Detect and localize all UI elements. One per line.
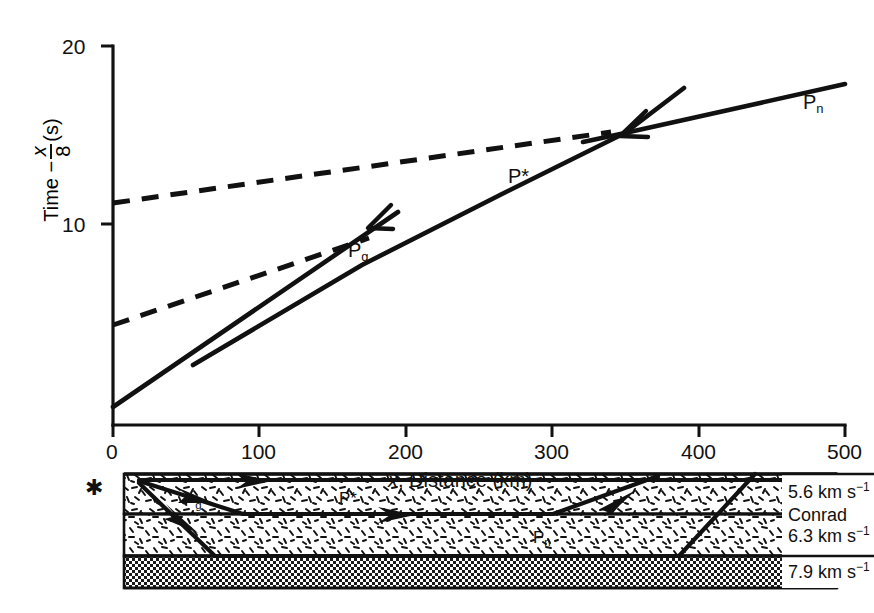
section-label-pg-sub: g <box>195 499 201 511</box>
y-axis-title: Time − x 8 (s) <box>31 55 71 285</box>
pstar-branch <box>193 88 684 365</box>
lower-crust-layer <box>124 514 837 556</box>
velocity-label-upper-crust: 5.6 km s−1 <box>787 483 871 501</box>
section-label-pn: Pn <box>533 529 551 546</box>
curve-label-pg-main: P <box>348 239 361 261</box>
x-tick-label-400: 400 <box>681 441 716 462</box>
earthquake-source-star-icon: ✱ <box>85 477 103 499</box>
y-axis-title-suffix: (s) <box>40 118 63 141</box>
curve-label-pn-sub: n <box>816 101 823 116</box>
y-axis-fraction: x 8 <box>29 144 73 159</box>
pn-asymptote-dashed <box>113 132 611 203</box>
travel-time-graph <box>0 0 874 613</box>
curve-label-pg: Pg <box>348 240 369 260</box>
curve-label-pstar: P* <box>508 166 529 186</box>
y-tick-label-20: 20 <box>62 36 85 57</box>
x-axis-title-var: x <box>388 469 398 491</box>
velocity-middle-value: 6.3 km s <box>788 526 856 546</box>
y-axis-title-prefix: Time − <box>40 161 63 222</box>
curve-label-pg-sub: g <box>361 249 368 264</box>
conrad-label: Conrad <box>787 506 848 524</box>
velocity-mantle-value: 7.9 km s <box>788 562 856 582</box>
section-label-pg: Pg <box>184 492 202 509</box>
x-axis-title-rest: , Distance (km) <box>398 469 532 491</box>
velocity-mantle-exponent: −1 <box>856 560 870 574</box>
x-tick-label-100: 100 <box>241 441 276 462</box>
x-axis-title: x, Distance (km) <box>388 470 532 491</box>
fraction-numerator: x <box>29 144 49 158</box>
section-label-pstar: P* <box>339 490 357 507</box>
curve-label-pn-main: P <box>803 91 816 113</box>
upper-mantle-layer <box>124 556 837 588</box>
x-tick-label-300: 300 <box>534 441 569 462</box>
figure-root: 20 10 Time − x 8 (s) 0 100 200 300 400 5… <box>0 0 874 613</box>
velocity-upper-exponent: −1 <box>856 480 870 494</box>
section-label-pn-main: P <box>533 528 544 547</box>
velocity-middle-exponent: −1 <box>856 524 870 538</box>
velocity-upper-value: 5.6 km s <box>788 482 856 502</box>
x-tick-label-0: 0 <box>106 441 118 462</box>
section-label-pg-main: P <box>184 491 195 510</box>
velocity-label-lower-crust: 6.3 km s−1 <box>787 527 871 545</box>
x-tick-label-200: 200 <box>388 441 423 462</box>
fraction-denominator: 8 <box>53 144 73 159</box>
section-label-pn-sub: n <box>544 536 550 548</box>
velocity-label-mantle: 7.9 km s−1 <box>787 563 871 581</box>
curve-label-pn: Pn <box>803 92 824 112</box>
x-tick-label-500: 500 <box>827 441 862 462</box>
